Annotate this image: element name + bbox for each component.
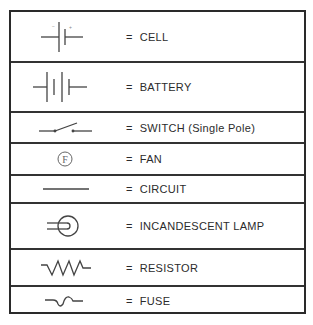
legend-row-cell: − + =CELL — [11, 12, 304, 63]
fan-icon: F — [25, 144, 105, 174]
legend-row-fuse: =FUSE — [11, 287, 304, 314]
legend-label-switch: =SWITCH (Single Pole) — [126, 122, 255, 134]
resistor-icon — [25, 250, 105, 285]
switch-single-pole-icon — [25, 113, 105, 142]
legend-row-resistor: =RESISTOR — [11, 250, 304, 287]
legend-row-battery: =BATTERY — [11, 63, 304, 113]
legend-label-battery: =BATTERY — [126, 81, 192, 93]
legend-label-cell: =CELL — [126, 31, 168, 43]
legend-row-lamp: =INCANDESCENT LAMP — [11, 204, 304, 250]
battery-icon — [25, 63, 105, 111]
legend-label-circuit: =CIRCUIT — [126, 183, 186, 195]
legend-label-lamp: =INCANDESCENT LAMP — [126, 220, 264, 232]
positive-mark: + — [69, 24, 72, 30]
legend-row-circuit: =CIRCUIT — [11, 176, 304, 204]
negative-mark: − — [52, 23, 55, 29]
legend-label-resistor: =RESISTOR — [126, 262, 198, 274]
fuse-icon — [25, 287, 105, 314]
electrical-symbols-legend: − + =CELL =BATTERY — [9, 10, 306, 314]
legend-row-switch: =SWITCH (Single Pole) — [11, 113, 304, 144]
incandescent-lamp-icon — [25, 204, 105, 248]
svg-text:F: F — [62, 154, 68, 165]
cell-icon: − + — [25, 12, 105, 61]
legend-label-fan: =FAN — [126, 153, 162, 165]
circuit-icon — [25, 176, 105, 202]
legend-row-fan: F =FAN — [11, 144, 304, 176]
legend-label-fuse: =FUSE — [126, 295, 170, 307]
